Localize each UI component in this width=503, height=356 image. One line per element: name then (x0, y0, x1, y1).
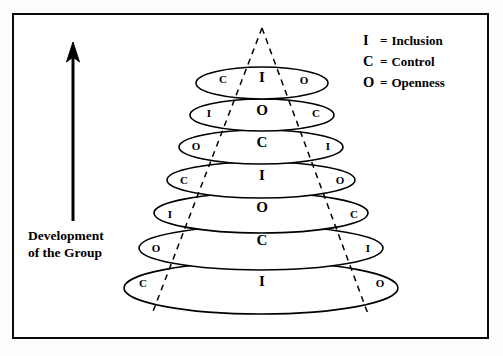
legend-item-control: C = Control (363, 51, 445, 72)
legend-item-inclusion: I = Inclusion (363, 30, 445, 51)
level-5-left: I (168, 208, 172, 220)
development-axis-label-line1: Development (28, 228, 148, 245)
level-7-center: I (259, 273, 265, 290)
legend-key-c: C (363, 51, 378, 72)
legend: I = Inclusion C = Control O = Openness (363, 30, 445, 93)
level-3-right: I (326, 140, 330, 152)
legend-key-i: I (363, 30, 378, 51)
level-3-left: O (192, 140, 201, 152)
level-6-center: C (257, 232, 268, 249)
legend-eq-i: = (380, 32, 387, 51)
level-2-right: C (312, 107, 320, 119)
level-2-left: I (207, 107, 211, 119)
level-1-center: I (259, 69, 265, 86)
level-1-right: O (300, 74, 309, 86)
legend-value-i: Inclusion (391, 32, 442, 51)
level-3-center: C (257, 134, 268, 151)
legend-value-c: Control (391, 53, 434, 72)
legend-item-openness: O = Openness (363, 72, 445, 93)
level-4-right: O (336, 174, 345, 186)
legend-eq-o: = (380, 74, 387, 93)
legend-value-o: Openness (391, 74, 444, 93)
legend-key-o: O (363, 72, 378, 93)
level-7-right: O (376, 277, 385, 289)
level-1-left: C (219, 73, 227, 85)
level-6-right: I (366, 242, 370, 254)
level-4-center: I (259, 167, 265, 184)
development-arrow (67, 42, 80, 221)
level-2-center: O (256, 102, 268, 119)
level-4-left: C (180, 174, 188, 186)
development-axis-label-line2: of the Group (28, 245, 148, 262)
diagram-canvas: C I O I O C O C I C I O I O C O C I C I … (0, 0, 503, 356)
legend-eq-c: = (380, 53, 387, 72)
development-axis-label: Development of the Group (28, 228, 148, 262)
level-7-left: C (139, 277, 147, 289)
level-5-right: C (350, 208, 358, 220)
level-6-left: O (152, 242, 161, 254)
level-5-center: O (256, 199, 268, 216)
